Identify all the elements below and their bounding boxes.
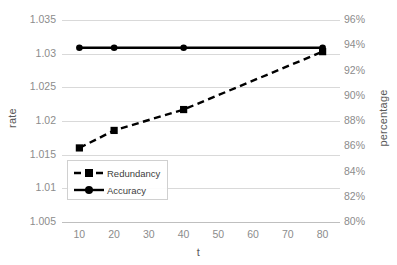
legend-label-redundancy: Redundancy <box>107 168 160 179</box>
data-point-redundancy <box>111 127 118 134</box>
x-axis-tick-label: 30 <box>134 228 164 240</box>
x-axis-tick-label: 10 <box>64 228 94 240</box>
x-axis-tick-label: 80 <box>308 228 338 240</box>
data-point-accuracy <box>180 44 187 51</box>
x-axis-tick-label: 40 <box>169 228 199 240</box>
data-point-accuracy <box>111 44 118 51</box>
x-axis-tick-label: 70 <box>273 228 303 240</box>
legend-item-accuracy: Accuracy <box>74 182 146 198</box>
legend: Redundancy Accuracy <box>67 160 168 200</box>
x-axis-tick-label: 60 <box>238 228 268 240</box>
data-point-accuracy <box>76 44 83 51</box>
legend-swatch-redundancy-icon <box>74 166 104 180</box>
legend-item-redundancy: Redundancy <box>74 165 160 181</box>
data-point-accuracy <box>319 44 326 51</box>
series-layer <box>76 44 326 151</box>
legend-label-accuracy: Accuracy <box>107 185 146 196</box>
x-axis-tick-label: 50 <box>203 228 233 240</box>
data-point-redundancy <box>76 144 83 151</box>
data-point-redundancy <box>180 106 187 113</box>
chart-container: rate percentage t 1.0351.031.0251.021.01… <box>0 0 397 265</box>
x-axis-tick-label: 20 <box>99 228 129 240</box>
legend-swatch-accuracy-icon <box>74 183 104 197</box>
